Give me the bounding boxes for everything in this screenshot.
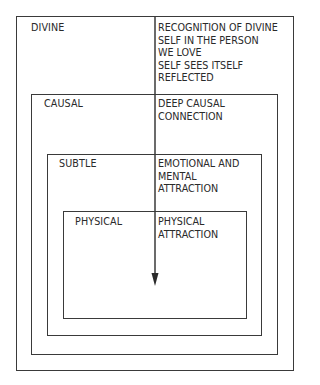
level-description-divine: RECOGNITION OF DIVINE SELF IN THE PERSON… xyxy=(158,22,278,85)
level-description-causal: DEEP CAUSAL CONNECTION xyxy=(158,98,225,123)
level-description-subtle: EMOTIONAL AND MENTAL ATTRACTION xyxy=(158,158,239,196)
level-description-physical: PHYSICAL ATTRACTION xyxy=(158,216,218,241)
level-label-subtle: SUBTLE xyxy=(59,158,97,171)
level-label-causal: CAUSAL xyxy=(44,98,83,111)
level-label-divine: DIVINE xyxy=(31,22,64,35)
level-label-physical: PHYSICAL xyxy=(75,216,122,229)
